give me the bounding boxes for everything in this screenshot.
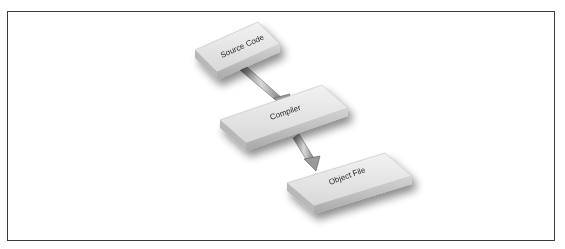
flow-diagram: Source Code Compiler Object File (0, 0, 565, 249)
node-source-code: Source Code (195, 22, 280, 80)
node-compiler: Compiler (220, 85, 348, 151)
node-object-file: Object File (287, 153, 412, 214)
arrow-compiler-to-object (293, 134, 320, 171)
